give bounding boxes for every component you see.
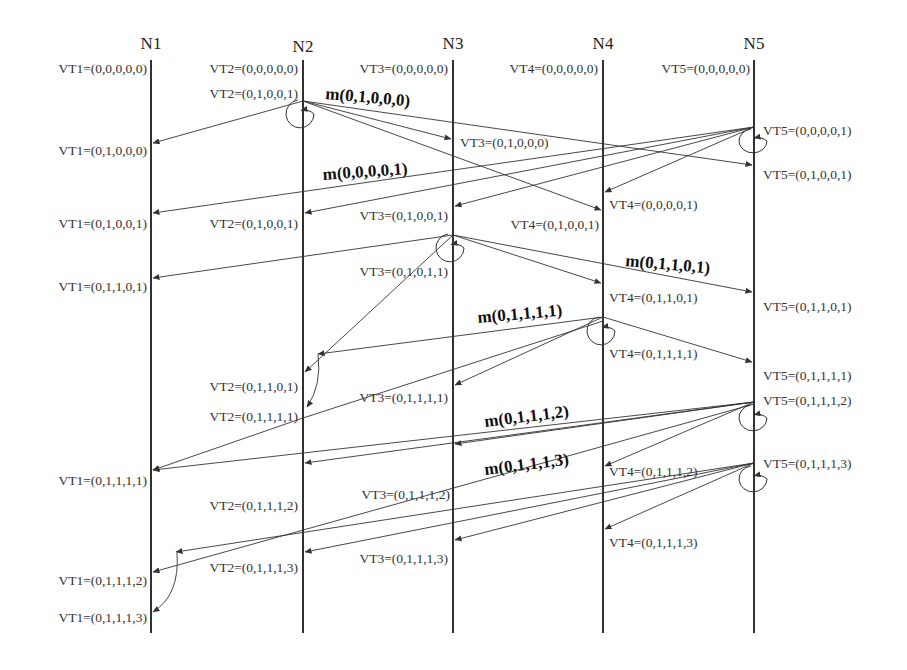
vector-clock-label-n5: VT5=(0,1,1,1,1) [763,368,852,383]
delayed-delivery-arrow-n1 [153,553,177,612]
node-label-n4: N4 [593,34,614,53]
vector-clock-label-n5: VT5=(0,1,1,1,2) [763,393,852,408]
vector-clock-label-n3: VT3=(0,1,0,0,1) [359,208,448,223]
vector-clock-label-n2: VT2=(0,1,0,0,1) [209,86,298,101]
node-labels: N1N2N3N4N5 [141,34,765,56]
vector-clock-label-n1: VT1=(0,1,0,0,1) [58,216,147,231]
vector-clock-label-n3: VT3=(0,1,1,1,3) [359,551,448,566]
vector-clock-label-n2: VT2=(0,1,1,1,3) [209,560,298,575]
vector-clock-label-n1: VT1=(0,1,1,1,2) [58,573,147,588]
delayed-delivery-arrow-n2 [307,354,319,407]
self-loop-icon-n5 [739,405,767,431]
vector-clock-label-n2: VT2=(0,1,1,1,2) [209,498,298,513]
message-label: m(0,1,1,0,1) [625,251,711,277]
message-arrow-n5-to-n4 [605,127,754,192]
vector-clock-label-n4: VT4=(0,1,1,0,1) [609,290,698,305]
message-arrow-n3-to-n2 [305,235,453,372]
vector-clock-label-n2: VT2=(0,0,0,0,0) [209,61,298,76]
vector-clock-label-n1: VT1=(0,1,1,0,1) [58,279,147,294]
node-label-n3: N3 [443,34,464,53]
vector-clock-label-n5: VT5=(0,1,1,0,1) [763,299,852,314]
vector-clock-label-n1: VT1=(0,1,1,1,1) [58,473,147,488]
vector-clock-label-n1: VT1=(0,1,1,1,3) [58,610,147,625]
node-label-n1: N1 [141,34,162,53]
message-arrow-n2-to-n1 [153,101,303,143]
self-loop-icon-n2 [286,100,314,128]
message-arrow-n2-to-n5 [303,101,752,165]
vector-clock-label-n5: VT5=(0,1,1,1,3) [763,456,852,471]
message-label: m(0,1,1,1,1) [477,301,563,327]
vector-clock-label-n5: VT5=(0,0,0,0,0) [661,61,750,76]
vector-clock-label-n3: VT3=(0,1,0,1,1) [359,264,448,279]
vector-clock-label-n4: VT4=(0,1,1,1,1) [609,346,698,361]
vector-clock-label-n5: VT5=(0,0,0,0,1) [763,123,852,138]
vector-clock-label-n2: VT2=(0,1,1,0,1) [209,379,298,394]
vector-clock-label-n5: VT5=(0,1,0,0,1) [763,167,852,182]
message-arrow-n4-to-n3 [455,317,603,385]
message-arrow-n5-to-n4 [605,402,754,466]
vector-clock-label-n3: VT3=(0,0,0,0,0) [359,61,448,76]
node-label-n5: N5 [744,34,765,53]
vector-clock-diagram: N1N2N3N4N5 VT1=(0,0,0,0,0)VT2=(0,0,0,0,0… [0,0,907,670]
vector-clock-label-n4: VT4=(0,1,0,0,1) [510,217,599,232]
vector-clock-label-n1: VT1=(0,0,0,0,0) [58,61,147,76]
message-label: m(0,1,0,0,0) [325,84,411,110]
message-label: m(0,1,1,1,2) [483,402,570,431]
message-label: m(0,1,1,1,3) [483,450,570,479]
vector-clock-label-n3: VT3=(0,1,0,0,0) [460,135,549,150]
vector-clock-labels: VT1=(0,0,0,0,0)VT2=(0,0,0,0,0)VT3=(0,0,0… [58,61,851,625]
vector-clock-label-n1: VT1=(0,1,0,0,0) [58,143,147,158]
vector-clock-label-n4: VT4=(0,0,0,0,0) [509,61,598,76]
message-label: m(0,0,0,0,1) [322,159,408,184]
vector-clock-label-n3: VT3=(0,1,1,1,1) [359,390,448,405]
vector-clock-label-n4: VT4=(0,0,0,0,1) [609,197,698,212]
node-label-n2: N2 [293,37,314,56]
vector-clock-label-n4: VT4=(0,1,1,1,2) [609,464,698,479]
message-arrow-n4-to-n2 [318,317,603,354]
vector-clock-label-n2: VT2=(0,1,1,1,1) [209,409,298,424]
vector-clock-label-n3: VT3=(0,1,1,1,2) [361,487,450,502]
vector-clock-label-n2: VT2=(0,1,0,0,1) [209,216,298,231]
vector-clock-label-n4: VT4=(0,1,1,1,3) [609,535,698,550]
